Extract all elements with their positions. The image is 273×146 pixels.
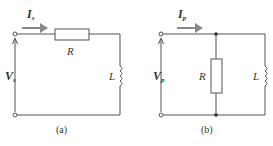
caption-b: (b) (201, 124, 213, 136)
node-b-top (214, 32, 218, 36)
terminal-a-top (13, 32, 17, 36)
inductor-label-a: L (108, 70, 115, 82)
resistor-label-b: R (198, 70, 206, 82)
inductor-label-b: L (252, 70, 259, 82)
resistor-label-a: R (66, 45, 74, 57)
resistor-b (211, 59, 222, 93)
resistor-a (55, 29, 89, 40)
caption-a: (a) (56, 124, 67, 136)
voltage-label-a: Vs (5, 69, 16, 84)
current-label-a: Is (26, 7, 35, 22)
voltage-label-b: Vp (153, 69, 165, 84)
inductor-a (120, 66, 122, 86)
current-arrow-b (177, 23, 203, 33)
circuit-b (159, 32, 268, 117)
terminal-a-bottom (13, 113, 17, 117)
terminal-b-top (159, 32, 163, 36)
inductor-b (265, 66, 267, 86)
terminal-b-bottom (159, 113, 163, 117)
circuit-a (13, 29, 123, 117)
current-arrow-a (22, 23, 48, 33)
current-label-b: Ip (177, 7, 187, 22)
node-b-bottom (214, 113, 218, 117)
circuit-diagrams: Is R L Vs (a) Ip R L Vp (b) (0, 0, 273, 146)
